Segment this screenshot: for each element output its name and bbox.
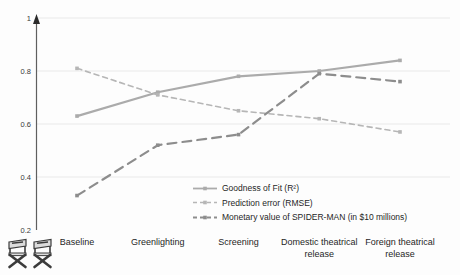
legend-entry: Prediction error (RMSE): [192, 196, 407, 211]
legend-entry: Monetary value of SPIDER-MAN (in $10 mil…: [192, 210, 407, 225]
series-line-0: [77, 60, 400, 116]
data-point-marker: [75, 194, 79, 198]
y-tick-label: 0.8: [5, 67, 31, 76]
data-point-marker: [75, 114, 79, 118]
data-point-marker: [237, 75, 241, 79]
data-point-marker: [398, 80, 402, 84]
x-category-label: Foreign theatrical release: [352, 237, 448, 260]
data-point-marker: [237, 109, 241, 113]
data-point-marker: [317, 117, 321, 121]
y-tick-label: 0.6: [5, 120, 31, 129]
y-tick-label: 1: [5, 14, 31, 23]
chart-plot-area: [0, 0, 460, 275]
data-point-marker: [75, 67, 79, 71]
y-tick-label: 0.2: [5, 226, 31, 235]
legend-label: Goodness of Fit (R²): [222, 183, 299, 193]
legend-line-sample: [192, 198, 218, 207]
director-chair-icon-group: [7, 238, 55, 270]
director-chair-icons: [7, 238, 55, 274]
data-point-marker: [237, 133, 241, 137]
y-tick-label: 0.4: [5, 173, 31, 182]
data-point-marker: [156, 93, 160, 97]
data-point-marker: [398, 130, 402, 134]
legend-entry: Goodness of Fit (R²): [192, 181, 407, 196]
data-point-marker: [398, 59, 402, 63]
chart-legend: Goodness of Fit (R²)Prediction error (RM…: [192, 181, 407, 225]
data-point-marker: [317, 72, 321, 76]
legend-line-sample: [192, 213, 218, 222]
data-point-marker: [156, 143, 160, 147]
director-chair-icon: [34, 240, 51, 268]
legend-label: Monetary value of SPIDER-MAN (in $10 mil…: [222, 212, 407, 222]
legend-label: Prediction error (RMSE): [222, 198, 313, 208]
line-chart-figure: 10.80.60.40.2 BaselineGreenlightingScree…: [0, 0, 460, 275]
director-chair-icon: [9, 240, 26, 268]
y-axis-arrowhead: [33, 14, 40, 24]
legend-line-sample: [192, 184, 218, 193]
